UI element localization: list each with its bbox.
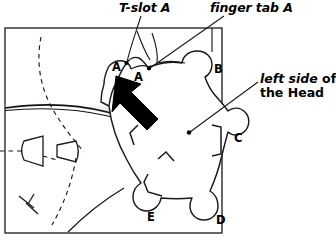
leader-dot-tslot: [124, 61, 128, 65]
tab-e-label: E: [147, 210, 155, 224]
label-head-bold: Head: [288, 85, 324, 100]
tab-a-outer-label: A: [112, 60, 121, 74]
tab-d-label: D: [216, 213, 226, 227]
label-left-side-of-head: left side of the Head: [260, 72, 336, 100]
label-left-side-italic: left side: [260, 71, 318, 86]
tab-c-label: C: [234, 131, 242, 145]
leader-dot-finger-tab: [147, 66, 151, 70]
label-of-roman: of: [318, 71, 336, 86]
leader-dot-head: [187, 130, 191, 134]
label-the-roman: the: [260, 85, 288, 100]
label-finger-tab-a: finger tab A: [210, 1, 293, 15]
label-head-line2: the Head: [260, 86, 336, 100]
label-tslot-a: T-slot A: [119, 1, 170, 15]
tab-b-label: B: [214, 62, 223, 76]
tab-a-inner-label: A: [134, 70, 143, 84]
